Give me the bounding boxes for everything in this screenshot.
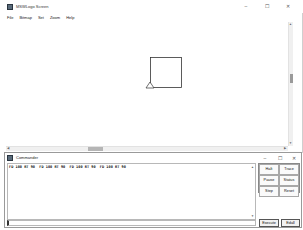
drawing-canvas[interactable] — [6, 22, 287, 145]
mswlogo-screen-window: MSWLogo Screen – ☐ ✕ File Bitmap Set Zoo… — [0, 0, 303, 153]
commander-icon — [7, 155, 13, 161]
trace-button[interactable]: Trace — [279, 164, 299, 175]
scroll-left-arrow-icon[interactable]: ◀ — [7, 146, 9, 150]
step-button[interactable]: Step — [259, 186, 279, 197]
close-button[interactable]: ✕ — [283, 3, 293, 10]
command-history[interactable]: FD 100 RT 90 FD 100 RT 90 FD 100 RT 90 F… — [7, 163, 256, 220]
horizontal-scroll-thumb[interactable] — [88, 147, 103, 151]
menu-bar: File Bitmap Set Zoom Help — [0, 13, 303, 22]
vertical-scrollbar[interactable] — [288, 22, 293, 146]
history-line[interactable]: FD 100 RT 90 FD 100 RT 90 FD 100 RT 90 F… — [9, 165, 126, 170]
halt-button[interactable]: Halt — [259, 164, 279, 175]
edall-button[interactable]: Edall — [281, 219, 300, 227]
commander-maximize-button[interactable]: ☐ — [276, 155, 284, 162]
commander-titlebar: Commander – ☐ ✕ — [5, 153, 301, 163]
control-buttons: Halt Trace Pause Status Step Reset — [258, 163, 300, 193]
commander-title: Commander — [16, 155, 38, 161]
window-title: MSWLogo Screen — [16, 4, 48, 10]
maximize-button[interactable]: ☐ — [262, 3, 272, 10]
scroll-down-arrow-icon[interactable]: ▼ — [289, 141, 292, 145]
history-scrollbar[interactable]: ▲ ▼ — [250, 164, 255, 219]
pause-button[interactable]: Pause — [259, 175, 279, 186]
screen-titlebar: MSWLogo Screen – ☐ ✕ — [0, 0, 303, 13]
menu-zoom[interactable]: Zoom — [50, 13, 60, 22]
drawn-square — [151, 58, 182, 88]
menu-file[interactable]: File — [7, 13, 13, 22]
menu-set[interactable]: Set — [38, 13, 44, 22]
commander-minimize-button[interactable]: – — [261, 155, 269, 162]
history-scroll-up-icon[interactable]: ▲ — [251, 165, 254, 169]
reset-button[interactable]: Reset — [279, 186, 299, 197]
turtle-icon — [146, 82, 154, 88]
app-icon — [7, 4, 13, 10]
scroll-up-arrow-icon[interactable]: ▲ — [289, 22, 292, 26]
status-button[interactable]: Status — [279, 175, 299, 186]
history-scroll-down-icon[interactable]: ▼ — [251, 214, 254, 218]
menu-bitmap[interactable]: Bitmap — [19, 13, 31, 22]
minimize-button[interactable]: – — [241, 3, 251, 10]
scroll-right-arrow-icon[interactable]: ▶ — [284, 146, 286, 150]
menu-help[interactable]: Help — [66, 13, 74, 22]
commander-close-button[interactable]: ✕ — [290, 155, 298, 162]
commander-window: Commander – ☐ ✕ FD 100 RT 90 FD 100 RT 9… — [4, 152, 302, 228]
horizontal-scrollbar[interactable] — [6, 146, 288, 151]
execute-button[interactable]: Execute — [259, 219, 279, 227]
command-input[interactable] — [7, 220, 256, 226]
vertical-scroll-thumb[interactable] — [290, 74, 293, 83]
